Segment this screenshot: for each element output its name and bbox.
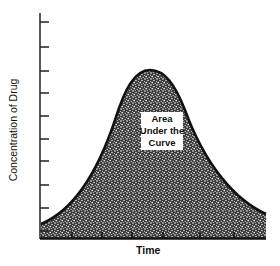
- annotation-line-1: Area: [138, 113, 186, 125]
- x-axis-label: Time: [136, 244, 160, 256]
- auc-area: [41, 70, 266, 238]
- y-axis-label-text: Concentration of Drug: [7, 79, 19, 182]
- annotation-line-2: Under the: [138, 125, 186, 137]
- annotation-line-3: Curve: [138, 137, 186, 149]
- y-axis-label: Concentration of Drug: [1, 40, 25, 220]
- auc-annotation: Area Under the Curve: [141, 112, 183, 150]
- y-axis-ticks: [40, 22, 49, 231]
